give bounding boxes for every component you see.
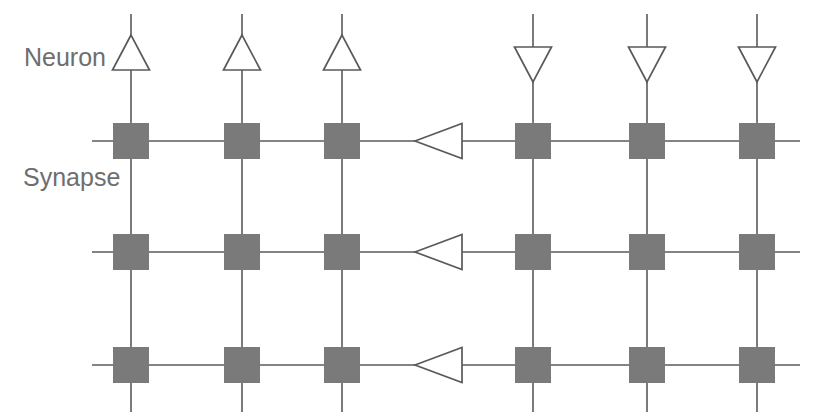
synapse-node[interactable]	[324, 347, 360, 383]
row-neuron-group	[415, 124, 462, 383]
neuron-col-2	[224, 35, 261, 70]
synapse-node[interactable]	[113, 347, 149, 383]
diagram-canvas: Neuron Synapse	[0, 0, 829, 419]
column-neuron-group	[113, 35, 776, 82]
neuron-col-6	[739, 47, 776, 82]
neuron-col-1	[113, 35, 150, 70]
synapse-node[interactable]	[515, 347, 551, 383]
neuron-row-2	[415, 235, 462, 270]
synapse-node[interactable]	[324, 234, 360, 270]
synapse-node[interactable]	[739, 123, 775, 159]
synapse-label: Synapse	[23, 163, 120, 191]
synapse-node[interactable]	[113, 234, 149, 270]
synapse-node[interactable]	[629, 234, 665, 270]
synapse-node[interactable]	[629, 123, 665, 159]
neuron-row-3	[415, 348, 462, 383]
synapse-node[interactable]	[224, 347, 260, 383]
synapse-node[interactable]	[629, 347, 665, 383]
neuron-col-3	[324, 35, 361, 70]
synapse-node[interactable]	[324, 123, 360, 159]
synapse-node[interactable]	[515, 234, 551, 270]
synapse-node[interactable]	[113, 123, 149, 159]
neuron-row-1	[415, 124, 462, 159]
synapse-node[interactable]	[739, 347, 775, 383]
neuron-label: Neuron	[24, 43, 106, 71]
synapse-node[interactable]	[739, 234, 775, 270]
synapse-node[interactable]	[515, 123, 551, 159]
synapse-node[interactable]	[224, 234, 260, 270]
synapse-node[interactable]	[224, 123, 260, 159]
neuron-col-5	[629, 47, 666, 82]
crossbar-diagram: Neuron Synapse	[0, 0, 829, 419]
neuron-col-4	[515, 47, 552, 82]
